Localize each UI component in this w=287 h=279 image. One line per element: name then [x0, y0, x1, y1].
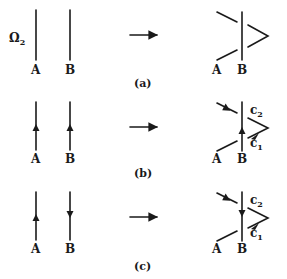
- caption-c: (c): [134, 260, 151, 273]
- panel-b: A B c2 c1 A B (b): [30, 102, 268, 180]
- arrow-icon: [222, 103, 231, 111]
- arrow-down-icon: [67, 211, 74, 218]
- label-b: B: [65, 63, 75, 77]
- result-label-b: B: [237, 63, 247, 77]
- label-b: B: [65, 152, 75, 166]
- arrow-down-icon: [239, 210, 246, 217]
- label-a: A: [30, 63, 41, 77]
- label-a: A: [30, 152, 41, 166]
- caption-b: (b): [134, 167, 152, 180]
- result-loop: [248, 118, 268, 138]
- caption-a: (a): [134, 77, 152, 90]
- arrow-up-icon: [239, 127, 246, 134]
- label-c2: c2: [250, 103, 263, 119]
- label-b: B: [65, 242, 75, 256]
- arrow-icon: [222, 193, 231, 201]
- result-label-a: A: [211, 152, 222, 166]
- result-loop: [248, 25, 268, 47]
- panel-a: Ω2 A B A B (a): [9, 10, 268, 90]
- result-loop: [248, 208, 268, 228]
- result-label-a: A: [211, 242, 222, 256]
- result-line-a-lower: [217, 141, 237, 151]
- result-line-a-upper: [217, 12, 237, 22]
- panel-c: A B c2 c1 A B (c): [30, 192, 268, 273]
- result-label-a: A: [211, 63, 222, 77]
- result-line-a-lower: [217, 50, 237, 60]
- result-label-b: B: [237, 242, 247, 256]
- label-c2: c2: [250, 193, 263, 209]
- diagram-figure: Ω2 A B A B (a) A B c2 c1 A B (b: [0, 0, 287, 279]
- arrow-up-icon: [67, 124, 74, 131]
- result-line-a-lower: [217, 231, 237, 241]
- arrow-up-icon: [33, 124, 40, 131]
- label-c1: c1: [250, 136, 263, 152]
- omega-label: Ω2: [9, 31, 25, 47]
- label-c1: c1: [250, 226, 263, 242]
- arrow-up-icon: [33, 214, 40, 221]
- label-a: A: [30, 242, 41, 256]
- result-label-b: B: [237, 152, 247, 166]
